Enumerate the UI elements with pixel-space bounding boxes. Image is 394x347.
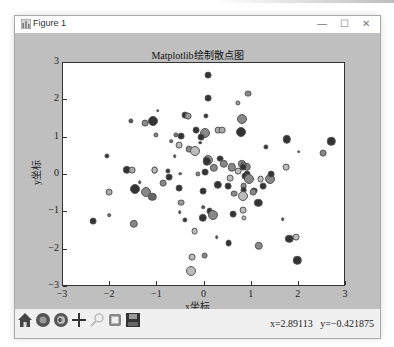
close-button[interactable]: ✕: [356, 17, 376, 31]
y-axis-label: y坐标: [28, 160, 43, 185]
scatter-point: [189, 253, 196, 260]
matplotlib-app-icon: [21, 19, 31, 29]
zoom-button[interactable]: [89, 312, 105, 328]
scatter-point: [235, 167, 242, 174]
scatter-point: [190, 146, 200, 156]
y-tick-label: 2: [43, 92, 59, 103]
y-tick-mark: [63, 62, 67, 63]
scatter-point: [195, 171, 200, 176]
scatter-point: [255, 242, 263, 250]
scatter-point: [130, 220, 138, 228]
y-tick-label: −2: [43, 242, 59, 253]
configure-subplots-button[interactable]: [107, 312, 123, 328]
plot-axes[interactable]: [62, 62, 345, 286]
scatter-point: [197, 134, 204, 141]
scatter-point: [225, 182, 232, 189]
y-tick-mark: [63, 249, 67, 250]
scatter-point: [229, 210, 236, 217]
home-button[interactable]: [17, 312, 33, 328]
scatter-point: [241, 215, 246, 220]
scatter-point: [193, 126, 200, 133]
scatter-point: [238, 191, 248, 201]
figure-window: Figure 1 — ☐ ✕ Matplotlib绘制散点图 −3−2−1012…: [14, 15, 381, 339]
scatter-point: [293, 256, 301, 264]
x-tick-mark: [298, 281, 299, 285]
plot-title: Matplotlib绘制散点图: [15, 47, 380, 62]
title-bar[interactable]: Figure 1 — ☐ ✕: [15, 16, 380, 33]
x-tick-mark: [204, 281, 205, 285]
scatter-point: [105, 189, 112, 196]
figure-canvas[interactable]: Matplotlib绘制散点图 −3−2−101233210−1−2−3 x坐标…: [15, 33, 380, 309]
scatter-point: [225, 240, 232, 247]
window-title: Figure 1: [33, 18, 66, 28]
scatter-point: [178, 211, 182, 215]
scatter-point: [201, 205, 205, 209]
forward-arrow-icon: [53, 312, 69, 328]
scatter-point: [214, 181, 222, 189]
scatter-point: [320, 150, 327, 157]
y-tick-label: 1: [43, 130, 59, 141]
scatter-point: [219, 126, 226, 133]
scatter-point: [283, 163, 290, 170]
scatter-point: [191, 228, 198, 235]
y-tick-mark: [63, 99, 67, 100]
scatter-point: [128, 167, 135, 174]
y-tick-mark: [63, 137, 67, 138]
scatter-point: [215, 235, 219, 239]
scatter-point: [156, 109, 160, 113]
back-arrow-icon: [35, 312, 51, 328]
scatter-point: [178, 133, 185, 140]
scatter-point: [153, 132, 158, 137]
scatter-point: [166, 173, 173, 180]
y-tick-label: 0: [43, 167, 59, 178]
y-tick-label: −3: [43, 279, 59, 290]
scatter-point: [128, 118, 133, 123]
maximize-button[interactable]: ☐: [334, 17, 354, 31]
scatter-point: [104, 153, 109, 158]
scatter-point: [107, 213, 111, 217]
forward-button[interactable]: [53, 312, 69, 328]
scatter-point: [130, 184, 140, 194]
scatter-point: [237, 114, 247, 124]
y-tick-label: 3: [43, 55, 59, 66]
scatter-point: [263, 144, 268, 149]
x-tick-mark: [109, 281, 110, 285]
scatter-point: [148, 116, 158, 126]
scatter-point: [185, 113, 192, 120]
cursor-coordinates: x=2.89113 y=−0.421875: [270, 318, 374, 329]
scatter-point: [138, 180, 142, 184]
pan-button[interactable]: [71, 312, 87, 328]
scatter-point: [169, 139, 173, 143]
y-tick-mark: [63, 211, 67, 212]
x-tick-mark: [345, 281, 346, 285]
save-button[interactable]: [125, 312, 141, 328]
scatter-point: [205, 94, 212, 101]
scatter-point: [178, 199, 185, 206]
home-icon: [17, 312, 33, 328]
scatter-point: [176, 141, 183, 148]
floppy-disk-icon: [125, 312, 141, 328]
scatter-point: [182, 217, 187, 222]
scatter-point: [176, 185, 183, 192]
scatter-point: [235, 100, 240, 105]
scatter-point: [240, 207, 247, 214]
scatter-point: [173, 154, 177, 158]
subplots-icon: [107, 312, 123, 328]
scatter-point: [201, 252, 208, 259]
scatter-point: [160, 180, 167, 187]
back-button[interactable]: [35, 312, 51, 328]
scatter-point: [186, 266, 196, 276]
scatter-point: [202, 169, 209, 176]
minimize-button[interactable]: —: [312, 17, 332, 31]
scatter-point: [90, 218, 97, 225]
scatter-point: [250, 189, 257, 196]
scatter-point: [297, 150, 301, 154]
zoom-rect-icon: [89, 312, 105, 328]
scatter-point: [245, 90, 252, 97]
scatter-point: [293, 234, 300, 241]
scatter-point: [230, 190, 237, 197]
scatter-point: [208, 210, 218, 220]
scatter-point: [203, 113, 208, 118]
scatter-point: [236, 127, 246, 137]
scatter-point: [198, 214, 206, 222]
